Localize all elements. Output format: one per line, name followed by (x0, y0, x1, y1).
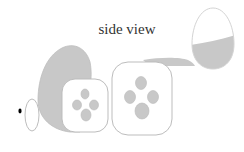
rounded-square-large (112, 62, 172, 135)
spot-right (90, 100, 99, 110)
spot-left (125, 91, 136, 104)
spot-left (73, 100, 82, 110)
spot-top (136, 77, 147, 90)
diagram-title: side view (98, 21, 155, 37)
spot-right (148, 91, 159, 104)
spot-bottom (81, 109, 91, 121)
side-view-diagram: side view (0, 0, 244, 152)
spot-top (81, 89, 89, 99)
rounded-square-small (62, 79, 108, 132)
half-filled-egg (190, 8, 236, 72)
spot-bottom (135, 103, 149, 119)
black-dot (18, 109, 21, 114)
small-ellipse (25, 99, 39, 131)
